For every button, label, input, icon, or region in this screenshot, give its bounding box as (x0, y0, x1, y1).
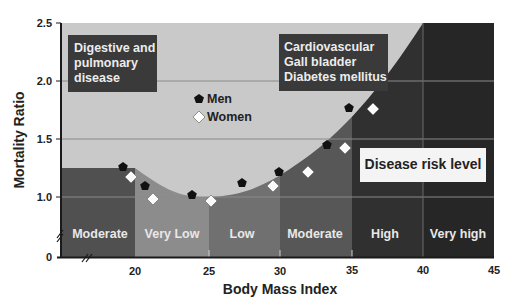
annotation-line: Cardiovascular (284, 40, 374, 54)
x-tick-45: 45 (488, 264, 500, 276)
band-label-moderate-left: Moderate (72, 227, 128, 241)
risk-level-text: Disease risk level (365, 156, 482, 172)
annotation-line: Digestive and (74, 41, 155, 55)
band-very-high (423, 23, 494, 257)
legend-men: Men (207, 92, 232, 106)
annotation-line: Diabetes mellitus (284, 70, 387, 84)
x-tick-40: 40 (417, 264, 429, 276)
x-tick-25: 25 (203, 265, 215, 277)
x-axis-title: Body Mass Index (223, 281, 338, 297)
bmi-mortality-chart: 2.5 2.0 1.5 1.0 0 20 25 30 35 40 45 Body… (0, 0, 514, 308)
x-tick-35: 35 (346, 264, 358, 276)
y-tick-0: 0 (46, 251, 52, 263)
band-label-high: High (371, 227, 399, 241)
band-label-very-high: Very high (430, 227, 486, 241)
legend-women: Women (207, 110, 252, 124)
y-axis-title: Mortality Ratio (11, 91, 27, 188)
disease-risk-level-label: Disease risk level (360, 148, 486, 182)
annotation-cardiovascular: Cardiovascular Gall bladder Diabetes mel… (279, 34, 388, 91)
y-tick-1.0: 1.0 (37, 191, 52, 203)
band-label-very-low: Very Low (145, 227, 200, 241)
annotation-line: disease (74, 71, 120, 85)
annotation-line: pulmonary (74, 56, 138, 70)
annotation-line: Gall bladder (284, 55, 356, 69)
x-tick-20: 20 (129, 265, 141, 277)
band-label-moderate-right: Moderate (287, 227, 343, 241)
annotation-digestive-pulmonary: Digestive and pulmonary disease (68, 35, 157, 92)
band-label-low: Low (230, 227, 255, 241)
y-tick-1.5: 1.5 (37, 133, 52, 145)
y-tick-2.5: 2.5 (37, 17, 52, 29)
x-tick-30: 30 (274, 265, 286, 277)
y-tick-2.0: 2.0 (37, 75, 52, 87)
